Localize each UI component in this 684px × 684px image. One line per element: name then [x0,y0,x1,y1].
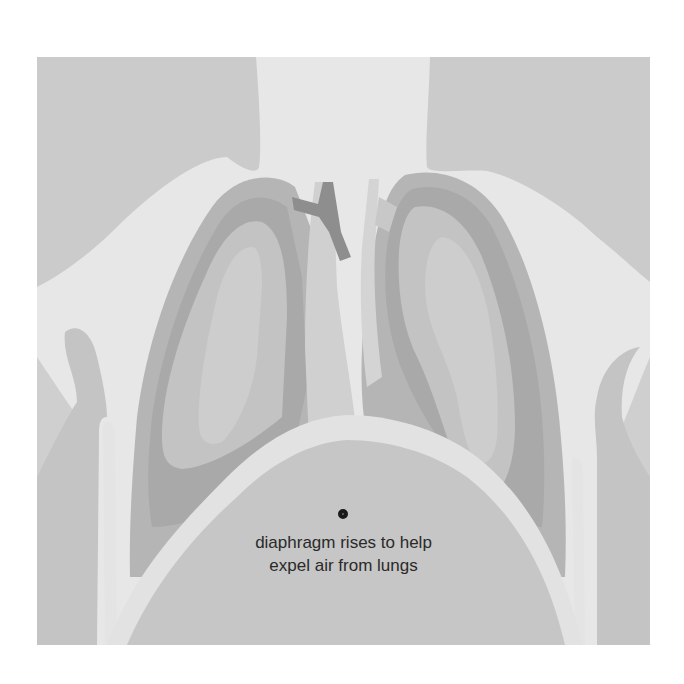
chest-illustration: diaphragm rises to help expel air from l… [37,57,650,645]
annotation-line-2: expel air from lungs [37,554,650,577]
bullet-marker-icon [338,509,348,519]
annotation-line-1: diaphragm rises to help [37,531,650,554]
